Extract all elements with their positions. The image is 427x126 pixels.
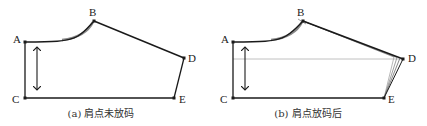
pattern-grading-diagram: A B C D E (a) 肩点未放码 [0, 0, 427, 126]
point-d [402, 58, 405, 61]
label-d: D [408, 52, 416, 64]
label-b: B [89, 6, 96, 18]
armhole-curve [233, 21, 303, 42]
label-c: C [12, 93, 19, 105]
label-e: E [179, 93, 186, 105]
label-d: D [188, 52, 196, 64]
armhole-grade-curve [62, 22, 93, 40]
shoulder-line [303, 21, 403, 59]
caption-a: (a) 肩点未放码 [68, 107, 135, 119]
point-c [232, 97, 235, 100]
point-b [93, 20, 96, 23]
side-line-grade-2 [384, 58, 397, 99]
panel-a: A B C D E (a) 肩点未放码 [12, 6, 196, 119]
shoulder-line [94, 21, 184, 58]
point-e [383, 97, 386, 100]
armhole-curve [25, 21, 94, 42]
label-e: E [388, 93, 395, 105]
point-c [24, 97, 27, 100]
point-e [173, 97, 176, 100]
point-d [183, 57, 186, 60]
point-a [24, 41, 27, 44]
label-c: C [220, 93, 227, 105]
point-a [232, 41, 235, 44]
label-a: A [221, 33, 229, 45]
label-a: A [13, 33, 21, 45]
label-b: B [297, 6, 304, 18]
armhole-grade-curve [271, 22, 302, 40]
panel-b: A B C D E (b) 肩点放码后 [220, 6, 416, 119]
point-b [302, 20, 305, 23]
side-line [174, 58, 184, 98]
caption-b: (b) 肩点放码后 [274, 107, 341, 119]
